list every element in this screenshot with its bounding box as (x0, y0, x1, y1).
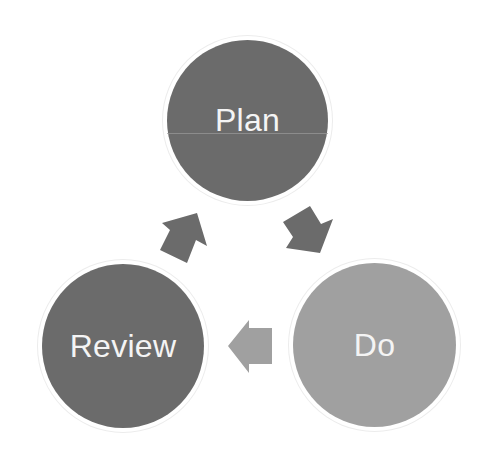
arrow-plan-to-do (283, 206, 333, 253)
node-plan-label: Plan (215, 102, 280, 139)
cycle-diagram: Plan Do Review (0, 0, 478, 451)
node-review-label: Review (70, 328, 177, 365)
node-review: Review (42, 264, 204, 428)
node-do-label: Do (354, 327, 396, 364)
node-do: Do (293, 263, 456, 427)
node-plan: Plan (167, 40, 328, 201)
arrow-review-to-plan (160, 213, 207, 263)
arrow-do-to-review (228, 320, 272, 373)
